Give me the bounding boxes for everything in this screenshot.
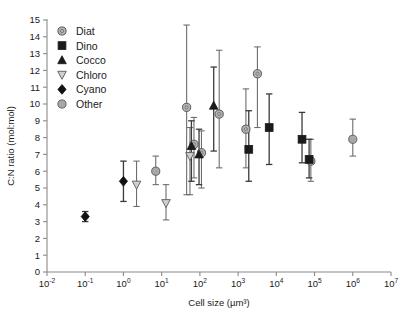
legend-label-cocco: Cocco — [76, 54, 106, 66]
legend-label-diat: Diat — [76, 25, 95, 37]
x-tick-label: 100 — [116, 277, 131, 289]
legend-label-chloro: Chloro — [76, 69, 107, 81]
data-point-other — [349, 135, 357, 143]
y-tick-label: 14 — [29, 31, 40, 42]
y-tick-label: 10 — [29, 98, 40, 109]
legend-marker-cyano — [58, 85, 66, 95]
data-point-diat — [215, 110, 223, 118]
y-tick-label: 13 — [29, 48, 40, 59]
legend-marker-other — [58, 100, 66, 108]
y-tick-label: 8 — [35, 132, 40, 143]
x-tick-label: 102 — [193, 277, 208, 289]
y-axis-title: C:N ratio (mol:mol) — [5, 106, 16, 186]
data-point-chloro — [132, 181, 141, 189]
data-point-dino — [298, 135, 306, 143]
data-point-dino — [245, 145, 253, 153]
x-tick-label: 105 — [307, 277, 322, 289]
legend-marker-diat — [58, 27, 66, 35]
x-tick-label: 106 — [346, 277, 361, 289]
y-tick-label: 4 — [35, 199, 40, 210]
legend-marker-cocco — [58, 56, 67, 64]
y-tick-label: 12 — [29, 65, 40, 76]
y-tick-label: 9 — [35, 115, 40, 126]
y-tick-label: 1 — [35, 250, 40, 261]
x-tick-label: 10-2 — [39, 277, 56, 289]
data-point-dino — [265, 124, 273, 132]
y-tick-label: 3 — [35, 216, 40, 227]
data-point-cyano — [119, 176, 127, 186]
data-point-other — [152, 167, 160, 175]
x-tick-label: 101 — [155, 277, 170, 289]
chart-figure: 012345678910111213141510-210-11001011021… — [0, 0, 402, 331]
chart-svg: 012345678910111213141510-210-11001011021… — [0, 0, 402, 331]
legend-marker-chloro — [58, 71, 67, 79]
y-tick-label: 5 — [35, 182, 40, 193]
y-tick-label: 7 — [35, 149, 40, 160]
x-tick-label: 104 — [269, 277, 284, 289]
y-tick-label: 0 — [35, 266, 40, 277]
y-tick-label: 6 — [35, 166, 40, 177]
data-point-cocco — [209, 101, 218, 109]
y-tick-label: 2 — [35, 233, 40, 244]
data-point-chloro — [162, 200, 171, 208]
legend-label-cyano: Cyano — [76, 83, 107, 95]
data-point-dino — [305, 156, 313, 164]
legend-label-other: Other — [76, 98, 103, 110]
y-tick-label: 15 — [29, 14, 40, 25]
x-tick-label: 10-1 — [77, 277, 94, 289]
data-point-diat — [242, 125, 250, 133]
x-tick-label: 107 — [384, 277, 399, 289]
legend-label-dino: Dino — [76, 40, 98, 52]
data-point-diat — [253, 70, 261, 78]
x-axis-title: Cell size (µm³) — [188, 297, 249, 308]
legend-marker-dino — [58, 42, 66, 50]
y-tick-label: 11 — [30, 82, 40, 93]
data-point-cyano — [81, 212, 89, 222]
x-tick-label: 103 — [231, 277, 246, 289]
data-point-diat — [183, 103, 191, 111]
